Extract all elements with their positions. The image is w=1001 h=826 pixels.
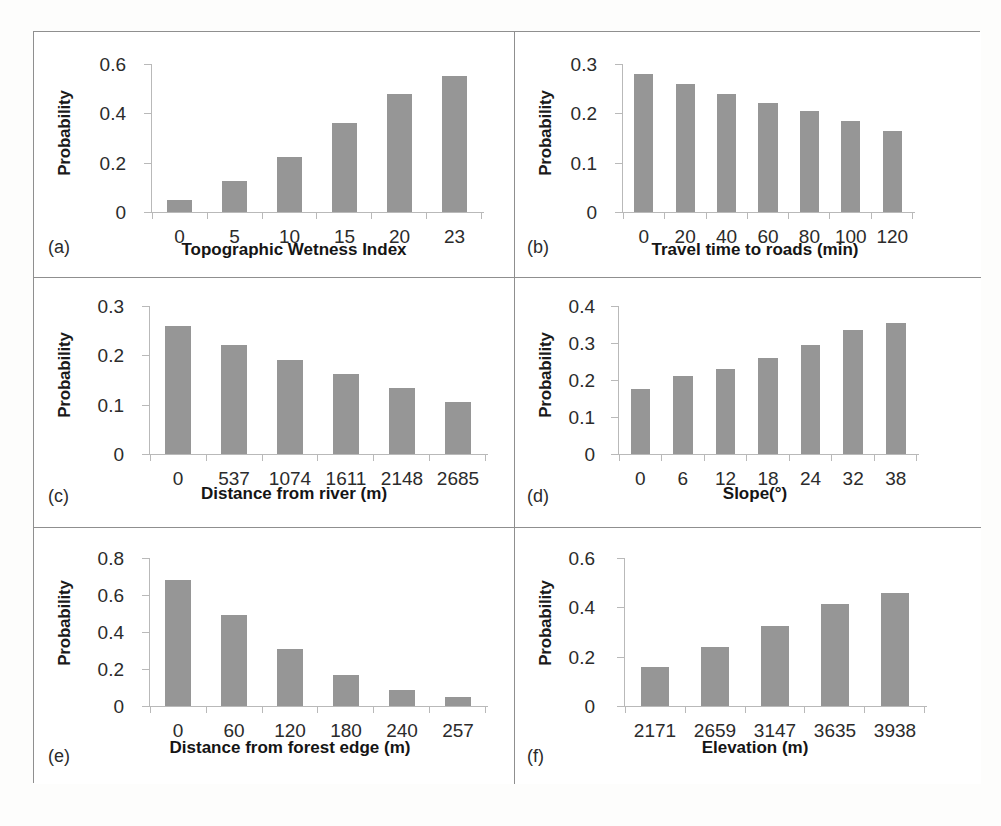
- x-axis-ticks-c: [150, 455, 486, 461]
- x-axis-tick-mark: [318, 455, 374, 461]
- bar-slot: [262, 64, 317, 212]
- bar: [881, 593, 909, 706]
- bar-slot: [623, 64, 664, 212]
- x-axis-tick-mark: [263, 707, 319, 713]
- panel-label-b: (b): [527, 237, 549, 258]
- panel-label-a: (a): [48, 237, 70, 258]
- chart-panel-d: Probability 00.10.20.30.4 061218243238 S…: [515, 278, 981, 528]
- y-tick-label: 0.3: [569, 334, 595, 353]
- y-axis-tick-mark: [142, 454, 150, 455]
- bar: [701, 647, 729, 706]
- x-axis-tick-mark: [317, 213, 372, 219]
- bar: [717, 94, 736, 212]
- y-tick-label: 0.4: [569, 598, 595, 617]
- bar: [222, 181, 247, 212]
- y-tick-label: 0.2: [98, 346, 124, 365]
- bar-slot: [872, 64, 913, 212]
- y-axis-tick-mark: [615, 64, 623, 65]
- chart-panel-f: Probability 00.20.40.6 21712659314736353…: [515, 528, 981, 784]
- y-tick-label: 0: [115, 203, 126, 222]
- x-axis-tick-mark: [705, 455, 747, 461]
- bar-slot: [207, 64, 262, 212]
- y-tick-label: 0.4: [98, 623, 124, 642]
- x-axis-tick-mark: [374, 455, 430, 461]
- bar-slot: [625, 558, 685, 706]
- bar-slot: [830, 64, 871, 212]
- bar: [843, 330, 863, 454]
- y-tick-label: 0.1: [571, 153, 597, 172]
- y-tick-label: 0.6: [98, 586, 124, 605]
- y-tick-label: 0.1: [98, 395, 124, 414]
- panel-label-d: (d): [527, 486, 549, 507]
- bar-slot: [262, 558, 318, 706]
- bar-chart-d: Probability 00.10.20.30.4 061218243238 S…: [515, 278, 981, 527]
- x-axis-ticks-b: [623, 213, 913, 219]
- y-axis-tick-mark: [142, 669, 150, 670]
- bar: [631, 389, 651, 454]
- y-axis-tick-mark: [142, 706, 150, 707]
- y-axis-tick-mark: [615, 212, 623, 213]
- bar: [165, 326, 191, 454]
- y-axis-tick-mark: [142, 405, 150, 406]
- x-axis-tick-mark: [374, 707, 430, 713]
- y-axis-tick-mark: [611, 380, 619, 381]
- bar-slot: [374, 306, 430, 454]
- bar: [277, 157, 302, 213]
- x-axis-tick-mark: [748, 213, 789, 219]
- chart-panel-e: Probability 00.20.40.60.8 06012018024025…: [34, 528, 515, 784]
- bar-slot: [805, 558, 865, 706]
- bar: [167, 200, 192, 212]
- y-axis-tick-mark: [611, 306, 619, 307]
- bar-slot: [150, 558, 206, 706]
- y-axis-tick-mark: [142, 306, 150, 307]
- bar-chart-b: Probability 00.10.20.3 020406080100120 T…: [515, 32, 981, 277]
- x-axis-title-d: Slope(°): [565, 484, 945, 504]
- plot-area-c: [150, 306, 486, 454]
- bar: [673, 376, 693, 454]
- bar: [387, 94, 412, 212]
- bar-slot: [206, 306, 262, 454]
- y-tick-label: 0.6: [569, 549, 595, 568]
- x-axis-tick-mark: [263, 455, 319, 461]
- y-tick-labels-a: 00.20.40.6: [74, 52, 126, 224]
- x-axis-tick-mark: [662, 455, 704, 461]
- panel-label-e: (e): [48, 746, 70, 767]
- bar-slot: [789, 306, 832, 454]
- y-tick-label: 0.4: [100, 104, 126, 123]
- x-axis-tick-mark: [747, 455, 789, 461]
- y-tick-label: 0.2: [98, 660, 124, 679]
- bar: [442, 76, 467, 212]
- bar-slot: [372, 64, 427, 212]
- y-tick-labels-d: 00.10.20.30.4: [543, 294, 595, 466]
- bar-slot: [662, 306, 705, 454]
- bar-slot: [747, 306, 790, 454]
- x-axis-tick-mark: [625, 707, 686, 713]
- bar: [221, 345, 247, 454]
- bar-slot: [430, 306, 486, 454]
- x-axis-tick-mark: [150, 707, 207, 713]
- x-axis-tick-mark: [665, 213, 706, 219]
- x-axis-tick-mark: [427, 213, 482, 219]
- x-axis-title-c: Distance from river (m): [94, 484, 494, 504]
- bar: [716, 369, 736, 454]
- bar: [758, 358, 778, 454]
- chart-panel-b: Probability 00.10.20.3 020406080100120 T…: [515, 32, 981, 278]
- y-axis-tick-mark: [142, 355, 150, 356]
- y-axis-tick-mark: [617, 706, 625, 707]
- bar-slot: [152, 64, 207, 212]
- bar: [821, 604, 849, 706]
- bar-slot: [664, 64, 705, 212]
- y-tick-label: 0: [584, 697, 595, 716]
- x-axis-title-b: Travel time to roads (min): [565, 240, 945, 260]
- y-axis-tick-mark: [144, 212, 152, 213]
- bar: [165, 580, 191, 706]
- bar-slot: [318, 558, 374, 706]
- bar-slot: [865, 558, 925, 706]
- bar-slot: [150, 306, 206, 454]
- plot-area-d: [619, 306, 917, 454]
- y-axis-tick-mark: [617, 657, 625, 658]
- bar: [389, 690, 415, 706]
- x-axis-tick-mark: [875, 455, 917, 461]
- bar-slot: [706, 64, 747, 212]
- y-axis-tick-mark: [615, 163, 623, 164]
